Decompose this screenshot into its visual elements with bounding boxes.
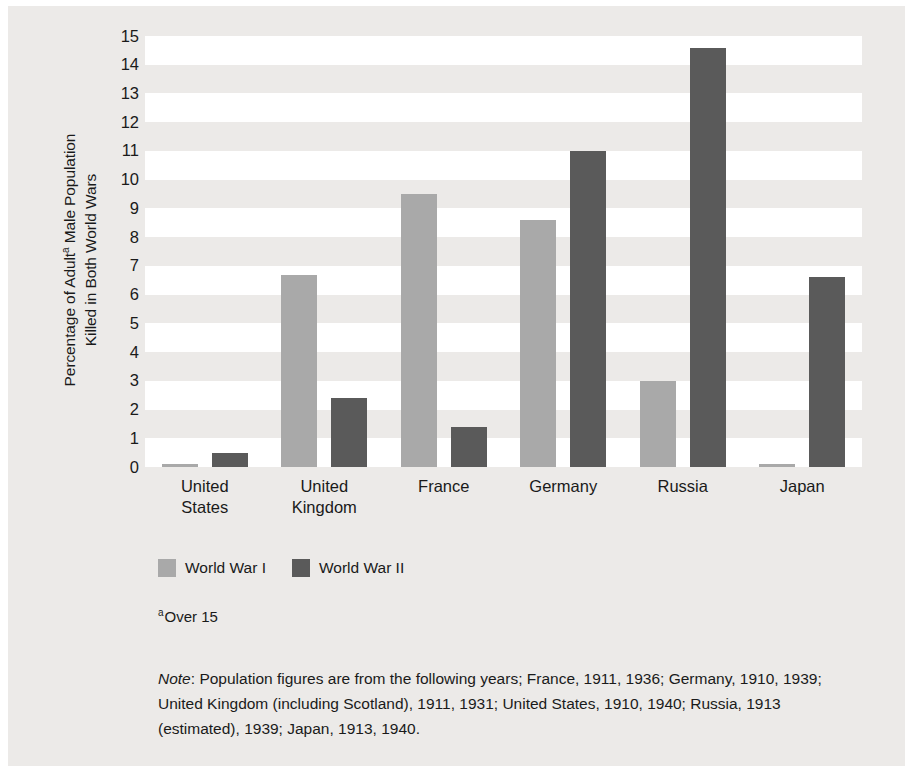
x-axis-tick-label-line: France xyxy=(384,476,504,497)
bar-united-kingdom-ww2 xyxy=(331,398,367,467)
x-axis-tick-label-line: United xyxy=(145,476,265,497)
y-axis-tick-label: 11 xyxy=(103,142,139,159)
x-axis-tick-label: France xyxy=(384,476,504,497)
x-axis-tick-label: Japan xyxy=(743,476,863,497)
bar-russia-ww1 xyxy=(640,381,676,467)
chart-footnote: aOver 15 xyxy=(158,609,218,624)
y-axis-tick-label: 3 xyxy=(103,372,139,389)
bar-united-states-ww2 xyxy=(212,453,248,467)
x-axis-tick-label: UnitedStates xyxy=(145,476,265,518)
bar-united-kingdom-ww1 xyxy=(281,275,317,468)
bar-japan-ww1 xyxy=(759,464,795,467)
x-axis-tick-label: UnitedKingdom xyxy=(265,476,385,518)
y-axis-title-line-1: Percentage of Adulta Male Population xyxy=(59,134,80,387)
chart-note: Note: Population figures are from the fo… xyxy=(158,666,858,741)
x-axis-tick-label-line: Germany xyxy=(504,476,624,497)
legend-label: World War II xyxy=(319,560,404,576)
y-axis-tick-label: 9 xyxy=(103,200,139,217)
x-axis-tick-label-line: United xyxy=(265,476,385,497)
y-axis-tick-label: 13 xyxy=(103,85,139,102)
bar-france-ww2 xyxy=(451,427,487,467)
legend-item-ww1: World War I xyxy=(158,559,266,577)
chart-figure-panel: Percentage of Adulta Male Population Kil… xyxy=(8,6,905,766)
y-axis-tick-label: 5 xyxy=(103,315,139,332)
chart-legend: World War IWorld War II xyxy=(158,559,404,577)
bar-germany-ww2 xyxy=(570,151,606,467)
y-axis-tick-label: 4 xyxy=(103,344,139,361)
legend-swatch-icon xyxy=(158,559,176,577)
footnote-marker: a xyxy=(158,607,164,618)
x-axis-tick-label-line: Japan xyxy=(743,476,863,497)
y-axis-title-line-2: Killed in Both World Wars xyxy=(80,174,101,346)
y-axis-tick-label: 14 xyxy=(103,56,139,73)
y-axis-tick-label: 0 xyxy=(103,459,139,476)
y-axis-title: Percentage of Adulta Male Population Kil… xyxy=(58,80,102,440)
y-axis-tick-label: 15 xyxy=(103,28,139,45)
y-axis-tick-labels: 0123456789101112131415 xyxy=(103,36,139,467)
bar-germany-ww1 xyxy=(520,220,556,467)
legend-item-ww2: World War II xyxy=(292,559,404,577)
bar-united-states-ww1 xyxy=(162,464,198,467)
bar-france-ww1 xyxy=(401,194,437,467)
y-axis-title-footnote-marker: a xyxy=(60,248,71,253)
x-axis-tick-labels: UnitedStatesUnitedKingdomFranceGermanyRu… xyxy=(145,476,862,530)
y-axis-tick-label: 8 xyxy=(103,229,139,246)
bars-layer xyxy=(145,36,862,467)
note-text: Population figures are from the followin… xyxy=(158,670,822,737)
y-axis-tick-label: 10 xyxy=(103,171,139,188)
legend-label: World War I xyxy=(185,560,266,576)
footnote-text: Over 15 xyxy=(165,608,218,625)
x-axis-tick-label: Germany xyxy=(504,476,624,497)
y-axis-tick-label: 2 xyxy=(103,401,139,418)
x-axis-tick-label-line: States xyxy=(145,497,265,518)
y-axis-title-line-1-rest: Male Population xyxy=(61,134,78,248)
legend-swatch-icon xyxy=(292,559,310,577)
plot-area xyxy=(145,36,862,467)
y-axis-tick-label: 12 xyxy=(103,114,139,131)
y-axis-tick-label: 6 xyxy=(103,286,139,303)
x-axis-tick-label-line: Kingdom xyxy=(265,497,385,518)
y-axis-title-line-1-text: Percentage of Adult xyxy=(61,253,78,386)
bar-russia-ww2 xyxy=(690,48,726,468)
x-axis-tick-label-line: Russia xyxy=(623,476,743,497)
x-axis-tick-label: Russia xyxy=(623,476,743,497)
bar-japan-ww2 xyxy=(809,277,845,467)
y-axis-tick-label: 1 xyxy=(103,430,139,447)
y-axis-tick-label: 7 xyxy=(103,257,139,274)
note-label: Note xyxy=(158,670,191,687)
